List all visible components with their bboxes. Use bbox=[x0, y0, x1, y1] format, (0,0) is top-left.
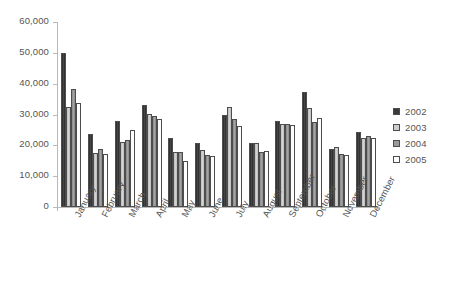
bar-group bbox=[168, 138, 188, 207]
bar-group bbox=[195, 143, 215, 207]
legend-label: 2004 bbox=[405, 138, 427, 149]
chart-legend: 2002200320042005 bbox=[393, 103, 427, 167]
bar-group bbox=[222, 107, 242, 207]
y-axis-tick-label: 0 bbox=[44, 200, 49, 211]
bar bbox=[317, 118, 322, 207]
y-axis-tick-label: 20,000 bbox=[19, 138, 49, 149]
legend-swatch-icon bbox=[393, 124, 400, 131]
x-axis-tick-mark bbox=[378, 207, 379, 211]
x-axis-tick-mark bbox=[271, 207, 272, 211]
x-axis-tick-mark bbox=[57, 207, 58, 211]
legend-item-2004[interactable]: 2004 bbox=[393, 135, 427, 151]
x-axis-tick-mark bbox=[244, 207, 245, 211]
bar-group bbox=[61, 53, 81, 207]
legend-label: 2005 bbox=[405, 154, 427, 165]
x-axis-tick-mark bbox=[164, 207, 165, 211]
x-axis-tick-mark bbox=[111, 207, 112, 211]
bar bbox=[76, 103, 81, 207]
legend-item-2003[interactable]: 2003 bbox=[393, 119, 427, 135]
y-axis-tick-label: 60,000 bbox=[19, 15, 49, 26]
x-axis-tick-mark bbox=[218, 207, 219, 211]
x-axis-tick-mark bbox=[84, 207, 85, 211]
legend-item-2002[interactable]: 2002 bbox=[393, 103, 427, 119]
x-axis-tick-mark bbox=[325, 207, 326, 211]
y-axis-tick-label: 50,000 bbox=[19, 46, 49, 57]
bar-chart: 60,00050,00040,00030,00020,00010,0000 Ja… bbox=[0, 0, 453, 282]
legend-item-2005[interactable]: 2005 bbox=[393, 151, 427, 167]
legend-swatch-icon bbox=[393, 108, 400, 115]
legend-swatch-icon bbox=[393, 156, 400, 163]
y-axis-tick-label: 30,000 bbox=[19, 108, 49, 119]
legend-label: 2003 bbox=[405, 122, 427, 133]
bar-group bbox=[249, 143, 269, 207]
x-axis-tick-mark bbox=[351, 207, 352, 211]
x-axis-tick-mark bbox=[137, 207, 138, 211]
y-axis-tick-label: 40,000 bbox=[19, 77, 49, 88]
y-axis-tick-label: 10,000 bbox=[19, 169, 49, 180]
bar-group bbox=[142, 105, 162, 207]
legend-label: 2002 bbox=[405, 106, 427, 117]
bar bbox=[237, 126, 242, 207]
x-axis-tick-mark bbox=[191, 207, 192, 211]
bar bbox=[157, 119, 162, 207]
legend-swatch-icon bbox=[393, 140, 400, 147]
x-axis-tick-mark bbox=[298, 207, 299, 211]
plot-area bbox=[57, 22, 378, 207]
